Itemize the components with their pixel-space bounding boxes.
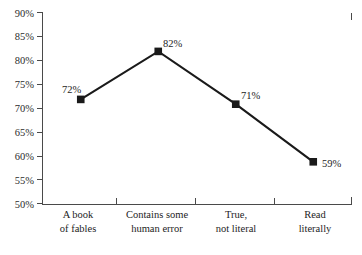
data-point-label: 72% [62, 84, 81, 95]
series-polyline [81, 51, 314, 161]
data-point-label: 59% [322, 158, 341, 169]
line-chart: 90% 85% 80% 75% 70% 65% 60% 55% [0, 0, 362, 255]
data-point-marker [154, 48, 162, 56]
data-point-marker [232, 100, 240, 108]
data-point-label: 82% [163, 38, 182, 49]
series-markers [77, 48, 317, 166]
data-point-marker [309, 158, 317, 166]
data-point-marker [77, 96, 85, 104]
data-point-label: 71% [241, 90, 260, 101]
